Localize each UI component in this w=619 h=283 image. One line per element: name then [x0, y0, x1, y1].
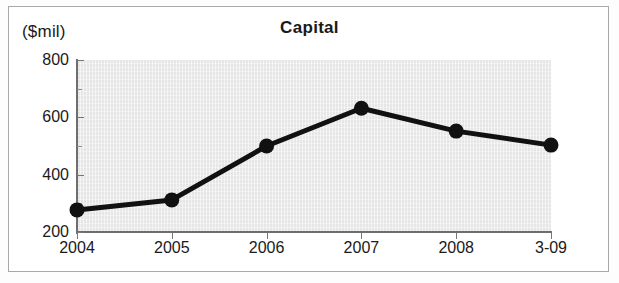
plot-area	[77, 60, 551, 232]
y-minor-tick-300	[77, 203, 82, 204]
y-tick-mark-400	[77, 175, 84, 176]
y-tick-mark-600	[77, 117, 84, 118]
chart-title: Capital	[0, 18, 619, 38]
x-axis-line	[76, 231, 552, 233]
y-tick-mark-800	[77, 60, 84, 61]
x-tick-mark-2006	[267, 233, 268, 239]
x-tick-mark-2005	[172, 233, 173, 239]
y-minor-tick-700	[77, 89, 82, 90]
y-minor-tick-500	[77, 146, 82, 147]
y-tick-label-800: 800	[25, 52, 69, 68]
x-tick-label-2005: 2005	[132, 240, 212, 256]
x-tick-mark-3-09	[551, 233, 552, 239]
x-tick-label-2007: 2007	[321, 240, 401, 256]
y-tick-label-600: 600	[25, 109, 69, 125]
y-tick-label-200: 200	[25, 224, 69, 240]
x-tick-mark-2008	[456, 233, 457, 239]
y-tick-label-400: 400	[25, 167, 69, 183]
x-tick-label-2006: 2006	[227, 240, 307, 256]
x-tick-label-2008: 2008	[416, 240, 496, 256]
x-tick-mark-2007	[361, 233, 362, 239]
x-tick-mark-2004	[77, 233, 78, 239]
x-tick-label-3-09: 3-09	[511, 240, 591, 256]
y-tick-mark-200	[77, 232, 84, 233]
chart-figure: ($mil) Capital 800600400200 200420052006…	[0, 0, 619, 283]
x-tick-label-2004: 2004	[37, 240, 117, 256]
